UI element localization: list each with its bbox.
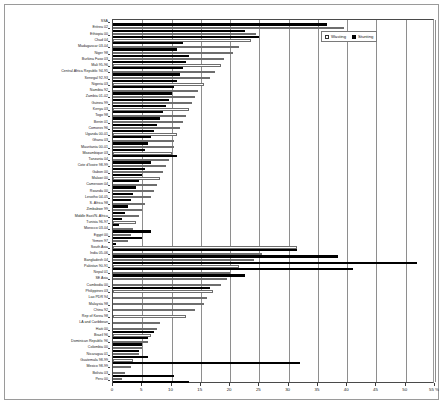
stunting-bar (113, 92, 172, 94)
category-label: SE Asia (95, 277, 108, 281)
category-tick (108, 286, 110, 287)
category-label: Middle East/N. Africa (75, 215, 108, 219)
category-tick (108, 267, 110, 268)
category-label: Morocco 03-04 (84, 227, 108, 231)
legend-item-stunting: Stunting (352, 34, 373, 39)
x-axis-tick-label: 10 (168, 387, 173, 392)
category-tick (108, 323, 110, 324)
category-label: Madagascar 03-04 (78, 45, 108, 49)
category-tick (108, 292, 110, 293)
stunting-bar (113, 180, 139, 182)
category-tick (108, 380, 110, 381)
x-axis-tick (141, 383, 142, 386)
gridline (435, 20, 436, 382)
category-tick (108, 185, 110, 186)
stunting-bar (113, 61, 186, 63)
category-label: Mexico 98-99 (86, 365, 108, 369)
wasting-swatch-icon (325, 35, 329, 39)
category-label: Peru 00 (95, 378, 108, 382)
category-tick (108, 279, 110, 280)
stunting-bar (113, 337, 148, 339)
stunting-bar (113, 142, 148, 144)
category-label: Malaysia 98 (89, 303, 108, 307)
category-label: Yemen 97 (92, 240, 108, 244)
category-tick (108, 141, 110, 142)
category-tick (108, 135, 110, 136)
category-tick (108, 173, 110, 174)
wasting-bar (113, 303, 204, 305)
category-tick (108, 148, 110, 149)
stunting-bar (113, 205, 128, 207)
x-axis-tick-label: 30 (285, 387, 290, 392)
category-label: Burkina Faso 03 (82, 58, 108, 62)
x-axis-tick-label: 40 (344, 387, 349, 392)
category-tick (108, 223, 110, 224)
stunting-bar (113, 73, 180, 75)
stunting-bar (113, 193, 133, 195)
stunting-bar (113, 249, 297, 251)
category-label: Pakistan 90-91 (84, 265, 108, 269)
category-tick (108, 154, 110, 155)
x-axis-tick-label: 55 % (429, 387, 439, 392)
category-label: Cambodia 00 (87, 284, 108, 288)
category-tick (108, 166, 110, 167)
stunting-bar (113, 48, 177, 50)
category-label: Ghana 03 (92, 139, 108, 143)
category-label: LA and Caribbean (79, 321, 108, 325)
category-tick (108, 66, 110, 67)
category-tick (108, 305, 110, 306)
category-tick (108, 317, 110, 318)
category-tick (108, 198, 110, 199)
category-tick (108, 192, 110, 193)
x-axis-tick-label: 25 (256, 387, 261, 392)
figure-frame: SSAEritrea 02Ethiopia 00Chad 04Madagasca… (4, 4, 439, 400)
category-label: Lao PDR 94 (88, 296, 108, 300)
category-label: Kenya 03 (93, 108, 108, 112)
stunting-bar (113, 130, 154, 132)
stunting-bar (113, 199, 131, 201)
category-tick (108, 72, 110, 73)
category-label: Niger 98 (94, 52, 108, 56)
category-tick (108, 330, 110, 331)
category-label: Nepal 01 (94, 271, 108, 275)
category-label: Brazil 96 (94, 334, 108, 338)
category-axis-labels: SSAEritrea 02Ethiopia 00Chad 04Madagasca… (11, 19, 110, 383)
category-tick (108, 261, 110, 262)
stunting-swatch-icon (352, 35, 356, 39)
category-label: Mali 95-96 (91, 64, 108, 68)
category-label: Dominican Republic 96 (71, 340, 108, 344)
stunting-bar (113, 111, 163, 113)
category-label: Zambia 01-02 (86, 95, 108, 99)
stunting-bar (113, 356, 148, 358)
category-label: China 92 (94, 309, 108, 313)
category-tick (108, 179, 110, 180)
category-tick (108, 342, 110, 343)
category-tick (108, 116, 110, 117)
category-tick (108, 129, 110, 130)
legend-label-stunting: Stunting (358, 34, 373, 39)
stunting-bar (113, 124, 157, 126)
x-axis-tick (434, 383, 435, 386)
category-tick (108, 85, 110, 86)
category-label: Zimbabwe 99 (86, 208, 108, 212)
category-tick (108, 336, 110, 337)
category-label: Malawi 00 (92, 177, 108, 181)
stunting-bar (113, 161, 151, 163)
category-tick (108, 254, 110, 255)
category-tick (108, 54, 110, 55)
x-axis-tick-label: 35 (314, 387, 319, 392)
chart-legend: Wasting Stunting (321, 31, 377, 42)
category-tick (108, 236, 110, 237)
category-label: Guinea 99 (91, 102, 108, 106)
category-tick (108, 210, 110, 211)
stunting-bar (113, 274, 245, 276)
category-tick (108, 104, 110, 105)
stunting-bar (113, 287, 210, 289)
category-tick (108, 35, 110, 36)
x-axis-tick (288, 383, 289, 386)
category-label: Bolivia 03 (92, 372, 108, 376)
stunting-bar (113, 362, 300, 364)
category-label: Rwanda 00 (90, 190, 108, 194)
stunting-bar (113, 117, 160, 119)
stunting-bar (113, 224, 119, 226)
